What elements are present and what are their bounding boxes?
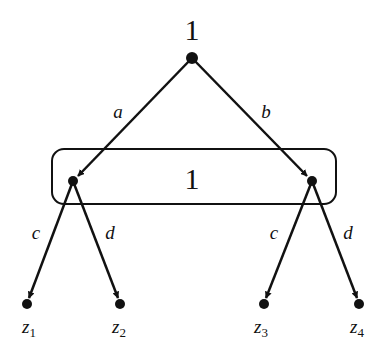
- edge-a: [78, 58, 192, 176]
- information-set-player-label: 1: [185, 162, 200, 195]
- terminal-node-z2: [115, 299, 125, 309]
- action-label-b: b: [261, 101, 271, 122]
- game-tree-diagram: 1 1 a b c d c d z1 z2 z3 z4: [0, 0, 386, 356]
- root-node: [186, 52, 198, 64]
- decision-node-right: [307, 176, 317, 186]
- action-label-right-c: c: [270, 222, 279, 243]
- action-label-right-d: d: [343, 222, 353, 243]
- terminal-node-z3: [259, 299, 269, 309]
- terminal-label-z2: z2: [111, 316, 126, 340]
- terminal-node-z4: [354, 299, 364, 309]
- terminal-node-z1: [22, 299, 32, 309]
- edge-b: [192, 58, 307, 176]
- action-label-left-c: c: [32, 222, 41, 243]
- action-label-a: a: [113, 101, 123, 122]
- root-player-label: 1: [185, 13, 200, 46]
- terminal-label-z1: z1: [21, 316, 36, 340]
- action-label-left-d: d: [105, 222, 115, 243]
- decision-node-left: [68, 176, 78, 186]
- terminal-label-z3: z3: [253, 316, 268, 340]
- terminal-label-z4: z4: [349, 316, 364, 340]
